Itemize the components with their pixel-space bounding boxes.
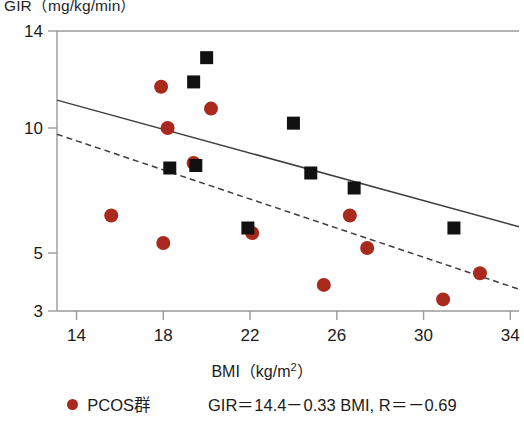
data-point-circle [317,278,331,292]
data-point-square [447,222,460,235]
data-point-circle [360,241,374,255]
legend-entry-pcos: PCOS群 GIR＝14.4－0.33 BMI, R＝－0.69 [67,392,456,416]
legend-circle-marker-icon [67,399,78,410]
data-point-circle [473,266,487,280]
x-tick-label: 26 [327,326,346,345]
y-tick-marks [48,31,57,311]
x-axis-label-tail: ） [297,363,313,380]
x-tick-label: 34 [501,326,520,345]
data-point-circle [156,236,170,250]
y-tick-label: 14 [24,22,43,41]
y-tick-label: 3 [34,302,43,321]
pcos-fit [57,134,519,289]
data-point-circle [161,121,175,135]
y-tick-label: 5 [34,244,43,263]
data-point-square [348,182,361,195]
x-tick-label: 14 [67,326,86,345]
x-tick-label: 18 [154,326,173,345]
data-point-square [163,162,176,175]
data-point-circle [154,80,168,94]
x-axis-label-main: BMI（kg/m [211,363,290,380]
legend-label-pcos: PCOS群 [87,392,151,416]
data-point-square [241,222,254,235]
y-tick-labels: 141053 [24,22,43,321]
x-tick-marks [77,311,511,320]
data-point-square [200,51,213,64]
x-tick-label: 22 [241,326,260,345]
regression-equation-text: GIR＝14.4－0.33 BMI, R＝－0.69 [208,392,457,416]
data-point-circle [343,209,357,223]
data-point-square [287,117,300,130]
data-point-circle [436,292,450,306]
legend: PCOS群 GIR＝14.4－0.33 BMI, R＝－0.69 [0,392,524,416]
data-point-square [187,75,200,88]
data-point-circle [204,102,218,116]
data-point-square [189,159,202,172]
data-point-square [304,167,317,180]
x-tick-labels: 141822263034 [67,326,520,345]
data-point-circle [104,209,118,223]
axis-lines [57,31,519,311]
x-axis-label: BMI（kg/m2） [0,358,524,382]
x-tick-label: 30 [414,326,433,345]
y-tick-label: 10 [24,119,43,138]
plot-canvas: 141053 141822263034 [0,0,524,360]
scatter-plot-figure: GIR（mg/kg/min） 141053 141822263034 BMI（k… [0,0,524,422]
data-point-markers [104,51,487,306]
